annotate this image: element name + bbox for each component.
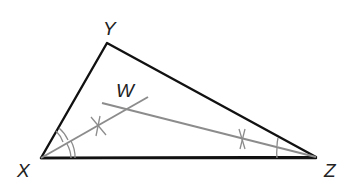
triangle-diagram: Y W X Z xyxy=(0,0,357,188)
bisector-x xyxy=(41,97,148,158)
triangle-xyz xyxy=(41,43,316,158)
point-label-w: W xyxy=(116,80,136,101)
angle-arc-x-lower-outer xyxy=(71,141,75,158)
diagram-svg: Y W X Z xyxy=(0,0,357,188)
angle-arc-x-upper-outer xyxy=(59,128,68,140)
construction-tick-x xyxy=(91,116,106,136)
bisector-z xyxy=(102,103,316,157)
vertex-label-y: Y xyxy=(103,18,117,39)
angle-arc-x-upper-inner xyxy=(56,131,63,142)
vertex-label-x: X xyxy=(16,160,31,181)
angle-arc-x-lower-inner xyxy=(67,144,71,158)
angle-arc-z-upper xyxy=(277,138,278,146)
vertex-label-z: Z xyxy=(323,160,337,181)
